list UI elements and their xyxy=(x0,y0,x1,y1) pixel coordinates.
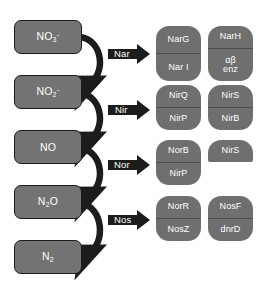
superscript: - xyxy=(57,30,60,39)
substrate-label-nitrate: NO3- xyxy=(36,31,59,43)
gene-capsule-nos-right: NosF dnrD xyxy=(208,196,253,241)
subscript: 2 xyxy=(50,256,54,263)
curved-arrow-nitrousoxide-to-dinitrogen xyxy=(80,203,100,253)
gene-cell-stacked: αβ enz xyxy=(208,48,253,81)
substrate-label-dinitrogen: N2 xyxy=(42,251,54,263)
gene-cell: NorB xyxy=(156,140,201,162)
superscript: - xyxy=(57,85,60,94)
gene-capsule-nir-right: NirS NirB xyxy=(208,85,253,130)
gene-cell: Nar I xyxy=(156,53,201,81)
gene-capsule-nos-left: NorR NosZ xyxy=(156,196,201,241)
gene-cell: NirS xyxy=(208,140,253,162)
gene-cell: NarH xyxy=(208,26,253,48)
gene-cell: NosF xyxy=(208,196,253,218)
substrate-box-nitrite: NO2- xyxy=(14,75,82,109)
substrate-label-nitrous-oxide: N2O xyxy=(38,196,58,208)
gene-capsule-nir-left: NirQ NirP xyxy=(156,85,201,130)
gene-capsule-nor-right: NirS xyxy=(208,140,253,162)
curved-arrow-nitrite-to-nitricoxide xyxy=(80,93,100,140)
gene-cell: NirP xyxy=(156,107,201,130)
gene-cell: NirS xyxy=(208,85,253,107)
substrate-label-nitrite: NO2- xyxy=(36,86,59,98)
gene-cell-line-2: enz xyxy=(223,65,238,74)
curved-arrow-nitrate-to-nitrite xyxy=(80,37,100,84)
gene-cell: NirP xyxy=(156,162,201,185)
gene-cell: NosZ xyxy=(156,218,201,241)
gene-cell: NirQ xyxy=(156,85,201,107)
enzyme-arrow-nir xyxy=(108,100,150,120)
substrate-box-nitrate: NO3- xyxy=(14,20,82,54)
enzyme-arrow-nar xyxy=(108,44,150,64)
curved-arrow-nitricoxide-to-nitrousoxide xyxy=(80,148,100,195)
gene-cell-stack: αβ enz xyxy=(223,56,238,75)
gene-capsule-nor-left: NorB NirP xyxy=(156,140,201,185)
substrate-label-nitric-oxide: NO xyxy=(40,142,56,153)
gene-cell: NarG xyxy=(156,26,201,53)
gene-capsule-nar-right: NarH αβ enz xyxy=(208,26,253,81)
substrate-box-dinitrogen: N2 xyxy=(14,240,82,274)
enzyme-arrow-nor xyxy=(108,155,150,175)
substrate-box-nitric-oxide: NO xyxy=(14,130,82,164)
subscript: 2 xyxy=(46,201,50,208)
enzyme-arrow-nos xyxy=(108,210,150,230)
denitrification-pathway-diagram: NO3- NO2- NO N2O N2 Nar Nir Nor Nos NarG… xyxy=(0,0,266,290)
gene-capsule-nar-left: NarG Nar I xyxy=(156,26,201,81)
gene-cell: NirB xyxy=(208,107,253,130)
substrate-box-nitrous-oxide: N2O xyxy=(14,185,82,219)
gene-cell: dnrD xyxy=(208,218,253,241)
gene-cell: NorR xyxy=(156,196,201,218)
